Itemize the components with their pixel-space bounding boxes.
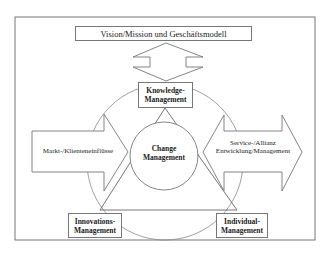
vision-mission-box: Vision/Mission und Geschäftsmodell xyxy=(75,26,252,41)
knowledge-line2: Management xyxy=(144,95,186,104)
change-line2: Management xyxy=(134,153,194,162)
change-management-label: Change Management xyxy=(134,144,194,162)
innovations-management-box: Innovations- Management xyxy=(68,213,122,238)
change-line1: Change xyxy=(134,144,194,153)
service-line2: Entwicklung/Management xyxy=(203,147,303,155)
innovations-line2: Management xyxy=(74,226,116,235)
service-alliance-label: Service-/Allianz Entwicklung/Management xyxy=(203,139,303,156)
individual-line2: Management xyxy=(221,226,263,235)
individual-line1: Individual- xyxy=(224,217,260,226)
market-influence-label: Markt-/Klienteneinflüsse xyxy=(32,147,124,155)
knowledge-line1: Knowledge- xyxy=(146,86,184,95)
knowledge-management-box: Knowledge- Management xyxy=(138,82,193,108)
service-line1: Service-/Allianz xyxy=(203,139,303,147)
innovations-line1: Innovations- xyxy=(75,217,115,226)
individual-management-box: Individual- Management xyxy=(216,213,268,238)
vision-mission-label: Vision/Mission und Geschäftsmodell xyxy=(100,29,226,39)
